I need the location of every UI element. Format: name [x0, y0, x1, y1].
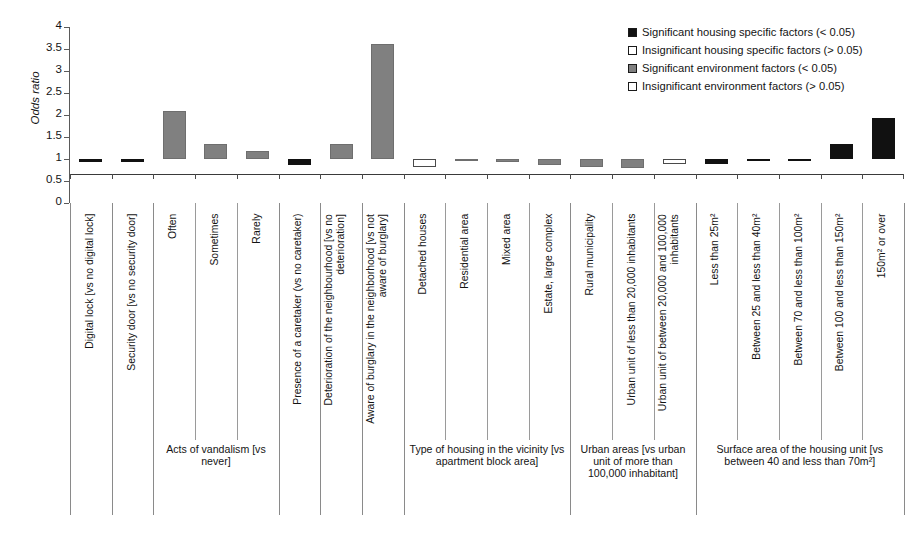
x-tick-mark [487, 174, 488, 179]
y-tick-mark [64, 159, 69, 160]
y-tick-mark [64, 203, 69, 204]
bar [330, 144, 353, 159]
y-tick-label: 2 [34, 107, 62, 119]
group-separator [70, 203, 71, 515]
x-tick-mark [445, 174, 446, 179]
y-tick-mark [64, 93, 69, 94]
x-tick-mark [779, 174, 780, 179]
bar [288, 159, 311, 165]
x-category-label: Sometimes [209, 214, 221, 439]
plot-area [70, 27, 904, 203]
x-tick-mark [696, 174, 697, 179]
y-tick-label: 1.5 [34, 129, 62, 141]
y-tick-label: 0 [34, 195, 62, 207]
x-tick-mark [153, 174, 154, 179]
x-tick-mark [654, 174, 655, 179]
x-category-label: Urban unit of less than 20,000 inhabitan… [626, 214, 638, 439]
x-category-label: Rarely [251, 214, 263, 439]
y-tick-label: 0.5 [34, 173, 62, 185]
y-axis-ticks: 00.511.522.533.54 [34, 25, 62, 201]
x-group-label: Surface area of the housing unit [vs bet… [699, 443, 902, 467]
bar [496, 159, 519, 162]
x-category-label: 150m² or over [877, 214, 889, 439]
y-tick-label: 3.5 [34, 41, 62, 53]
x-category-label: Estate, large complex [543, 214, 555, 439]
y-tick-label: 2.5 [34, 85, 62, 97]
group-separator [696, 203, 697, 515]
x-category-label: Less than 25m² [710, 214, 722, 439]
x-tick-mark [862, 174, 863, 179]
category-separator [821, 203, 822, 440]
x-category-label: Deterioration of the neighbourhood [vs n… [323, 214, 346, 439]
category-separator [237, 203, 238, 440]
x-category-label: Security door [vs no security door] [126, 214, 138, 439]
x-category-label: Aware of burglary in the neighborhood [v… [365, 214, 388, 439]
x-tick-mark [821, 174, 822, 179]
x-group-label: Type of housing in the vicinity [vs apar… [407, 443, 568, 467]
x-tick-mark [570, 174, 571, 179]
x-category-label: Between 100 and less than 150m² [835, 214, 847, 439]
category-separator [529, 203, 530, 440]
x-category-label: Often [168, 214, 180, 439]
category-separator [612, 203, 613, 440]
category-separator [195, 203, 196, 440]
x-tick-mark [612, 174, 613, 179]
x-category-label: Between 25 and less than 40m² [751, 214, 763, 439]
bar [163, 111, 186, 159]
x-category-label: Presence of a caretaker (vs no caretaker… [293, 214, 305, 439]
category-separator [779, 203, 780, 440]
group-separator [320, 203, 321, 515]
bar [121, 159, 144, 162]
y-tick-label: 3 [34, 63, 62, 75]
y-tick-mark [64, 49, 69, 50]
bar [830, 144, 853, 159]
bar [455, 159, 478, 161]
x-tick-mark [237, 174, 238, 179]
category-separator [487, 203, 488, 440]
group-separator [904, 203, 905, 515]
group-separator [570, 203, 571, 515]
bar [788, 159, 811, 161]
x-category-label: Between 70 and less than 100m² [793, 214, 805, 439]
group-separator [279, 203, 280, 515]
y-tick-mark [64, 137, 69, 138]
bar [705, 159, 728, 164]
category-separator [862, 203, 863, 440]
group-separator [404, 203, 405, 515]
x-tick-mark [529, 174, 530, 179]
y-tick-mark [64, 181, 69, 182]
category-separator [737, 203, 738, 440]
y-tick-mark [64, 71, 69, 72]
bar [371, 44, 394, 159]
bar [580, 159, 603, 167]
x-category-label: Digital lock [vs no digital lock] [84, 214, 96, 439]
x-category-label: Rural municipality [585, 214, 597, 439]
group-separator [362, 203, 363, 515]
group-separator [112, 203, 113, 515]
odds-ratio-chart: Significant housing specific factors (< … [0, 0, 912, 538]
x-category-label: Residential area [460, 214, 472, 439]
bar [413, 159, 436, 167]
x-category-label: Detached houses [418, 214, 430, 439]
bar [204, 144, 227, 159]
x-tick-mark [362, 174, 363, 179]
x-category-label: Urban unit of between 20,000 and 100,000… [656, 214, 679, 439]
x-tick-mark [195, 174, 196, 179]
category-label-band: Digital lock [vs no digital lock]Securit… [70, 203, 904, 523]
bar [79, 159, 102, 162]
y-tick-label: 4 [34, 19, 62, 31]
x-tick-mark [279, 174, 280, 179]
x-tick-mark [70, 174, 71, 179]
x-group-label: Acts of vandalism [vs never] [156, 443, 275, 467]
x-category-label: Mixed area [501, 214, 513, 439]
x-tick-mark [320, 174, 321, 179]
bar [663, 159, 686, 164]
x-tick-mark [112, 174, 113, 179]
group-separator [153, 203, 154, 515]
y-tick-label: 1 [34, 151, 62, 163]
category-separator [654, 203, 655, 440]
x-tick-mark [903, 174, 904, 179]
y-tick-mark [64, 27, 69, 28]
bar [872, 118, 895, 159]
x-group-label: Urban areas [vs urban unit of more than … [573, 443, 692, 480]
